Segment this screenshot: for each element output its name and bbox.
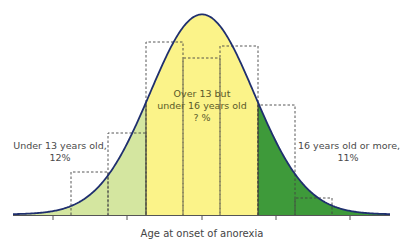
x-axis-ticks xyxy=(53,216,350,220)
normal-distribution-chart xyxy=(0,0,401,250)
label-13-to-16: Over 13 but under 16 years old ? % xyxy=(152,88,252,124)
label-under-13-value: 12% xyxy=(12,152,108,164)
x-axis-label: Age at onset of anorexia xyxy=(120,228,284,239)
label-16-or-more: 16 years old or more, 11% xyxy=(298,140,398,164)
label-under-13-line1: Under 13 years old, xyxy=(12,140,108,152)
label-under-13: Under 13 years old, 12% xyxy=(12,140,108,164)
label-13-to-16-line1: Over 13 but xyxy=(152,88,252,100)
label-13-to-16-value: ? % xyxy=(152,112,252,124)
label-16-or-more-value: 11% xyxy=(298,152,398,164)
label-13-to-16-line2: under 16 years old xyxy=(152,100,252,112)
label-16-or-more-line1: 16 years old or more, xyxy=(298,140,398,152)
